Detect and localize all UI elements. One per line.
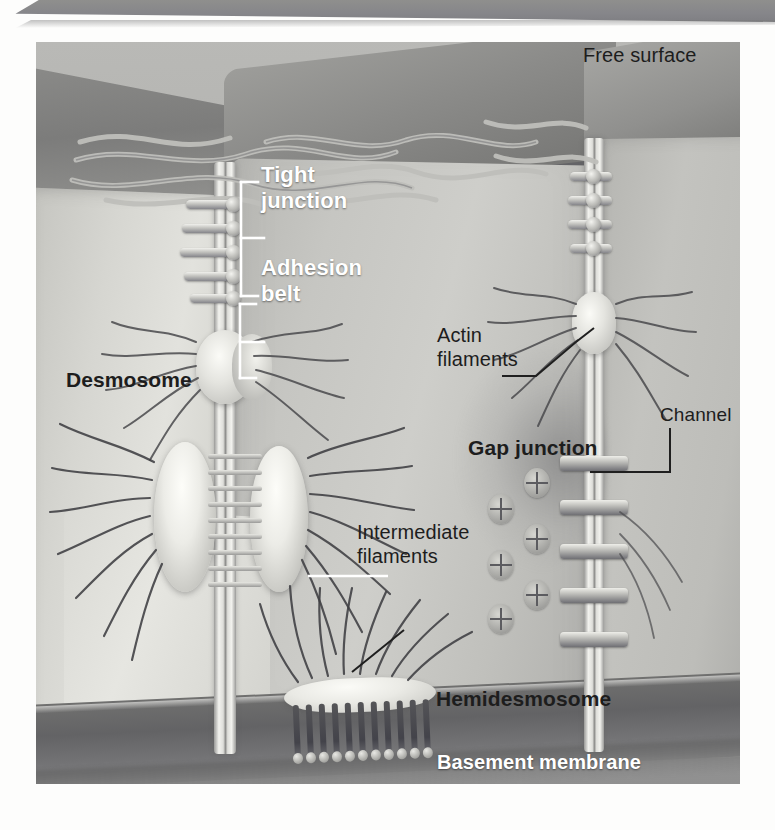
desmosome-plaque-left bbox=[154, 442, 216, 592]
page-top-band bbox=[0, 0, 775, 22]
label-hemidesmosome: Hemidesmosome bbox=[436, 687, 611, 712]
page-top-band-shadow bbox=[0, 20, 775, 28]
connexon-particles bbox=[488, 468, 564, 628]
hemidesmosome-anchor-pins bbox=[293, 699, 436, 769]
tight-junction-strands-right bbox=[556, 168, 636, 278]
label-adhesion-belt: Adhesion belt bbox=[261, 255, 362, 307]
label-gap-junction: Gap junction bbox=[468, 436, 598, 461]
label-intermediate-filaments: Intermediate filaments bbox=[357, 521, 469, 568]
illustration-plate bbox=[36, 42, 740, 784]
label-basement-membrane: Basement membrane bbox=[437, 751, 641, 775]
gap-junction-channels bbox=[560, 456, 630, 654]
label-channel: Channel bbox=[660, 404, 731, 426]
adhesion-belt-right bbox=[232, 334, 272, 400]
label-desmosome: Desmosome bbox=[66, 368, 192, 393]
adhesion-belt-right-cell bbox=[572, 292, 616, 354]
label-actin-filaments: Actin filaments bbox=[437, 324, 518, 371]
cell-junction-figure: Free surface Tight junction Adhesion bel… bbox=[0, 0, 775, 830]
desmosome-cadherin-rungs bbox=[208, 454, 262, 590]
label-tight-junction: Tight junction bbox=[261, 162, 347, 214]
label-free-surface: Free surface bbox=[583, 44, 696, 68]
